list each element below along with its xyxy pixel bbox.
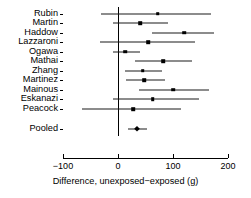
- study-label-pooled: Pooled: [29, 124, 58, 133]
- x-axis-tick-0: [118, 154, 119, 158]
- y-axis-tick: [60, 71, 63, 72]
- x-axis-tick--100: [63, 154, 64, 158]
- x-axis-tick-100: [173, 154, 174, 158]
- y-axis-tick: [60, 129, 63, 130]
- y-axis-tick: [60, 42, 63, 43]
- x-axis-tick-label-200: 200: [220, 162, 235, 171]
- y-axis-tick: [60, 52, 63, 53]
- x-axis-tick-label--100: −100: [53, 162, 73, 171]
- point-estimate-peacock: [132, 107, 136, 111]
- y-axis-tick: [60, 14, 63, 15]
- x-axis-tick-label-100: 100: [165, 162, 180, 171]
- point-estimate-martinez: [143, 79, 147, 83]
- study-label-peacock: Peacock: [23, 104, 58, 113]
- point-estimate-mathai: [161, 59, 165, 63]
- point-estimate-eskanazi: [151, 98, 155, 102]
- y-axis-tick: [60, 33, 63, 34]
- forest-plot: RubinMartinHaddowLazzaroniOgawaMathaiZha…: [0, 0, 251, 198]
- y-axis-tick: [60, 90, 63, 91]
- x-axis-title: Difference, unexposed−exposed (g): [0, 176, 251, 186]
- null-effect-line: [118, 7, 119, 137]
- point-estimate-ogawa: [123, 50, 127, 54]
- point-estimate-haddow: [182, 31, 186, 35]
- study-label-column: RubinMartinHaddowLazzaroniOgawaMathaiZha…: [0, 0, 58, 198]
- point-estimate-zhang: [141, 69, 145, 73]
- confidence-interval-eskanazi: [113, 99, 200, 100]
- y-axis-tick: [60, 99, 63, 100]
- y-axis-tick: [60, 61, 63, 62]
- x-axis-line: [63, 158, 228, 159]
- point-estimate-martin: [138, 21, 142, 25]
- y-axis-tick: [60, 23, 63, 24]
- x-axis-tick-label-0: 0: [115, 162, 120, 171]
- point-estimate-rubin: [156, 12, 160, 16]
- y-axis-tick: [60, 80, 63, 81]
- point-estimate-mainous: [171, 88, 175, 92]
- y-axis-tick: [60, 109, 63, 110]
- plot-area: [63, 0, 228, 198]
- point-estimate-pooled: [134, 126, 140, 132]
- point-estimate-lazzaroni: [146, 40, 150, 44]
- x-axis-tick-200: [228, 154, 229, 158]
